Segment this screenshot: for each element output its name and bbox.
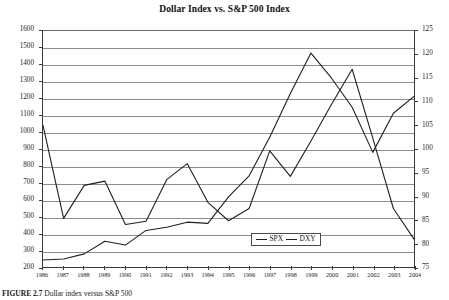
y-axis-left-tick-mark bbox=[39, 64, 43, 65]
x-axis-tick-mark bbox=[229, 266, 230, 270]
chart-legend: SPX DXY bbox=[251, 233, 321, 246]
legend-entry-spx: SPX bbox=[256, 235, 283, 243]
series-line-dxy bbox=[43, 69, 414, 239]
x-axis-tick-mark bbox=[125, 266, 126, 270]
y-axis-left-tick-label: 600 bbox=[0, 196, 34, 203]
y-axis-right-tick-label: 80 bbox=[422, 241, 449, 248]
y-axis-left-tick-mark bbox=[39, 98, 43, 99]
x-axis-tick-label: 2004 bbox=[402, 272, 428, 278]
y-axis-right-tick-label: 75 bbox=[422, 264, 449, 271]
y-axis-left-tick-mark bbox=[39, 30, 43, 31]
y-axis-left-tick-label: 1600 bbox=[0, 26, 34, 33]
series-line-spx bbox=[43, 53, 414, 260]
y-axis-right-tick-mark bbox=[414, 173, 418, 174]
y-axis-right-tick-mark bbox=[414, 101, 418, 102]
y-axis-left-tick-label: 200 bbox=[0, 264, 34, 271]
y-axis-right-tick-mark bbox=[414, 30, 418, 31]
x-axis-tick-mark bbox=[208, 266, 209, 270]
x-axis-tick-mark bbox=[415, 266, 416, 270]
y-axis-right-tick-label: 95 bbox=[422, 169, 449, 176]
chart-title: Dollar Index vs. S&P 500 Index bbox=[0, 4, 449, 14]
legend-label-spx: SPX bbox=[270, 235, 284, 243]
y-axis-right-tick-label: 110 bbox=[422, 98, 449, 105]
y-axis-right-tick-mark bbox=[414, 149, 418, 150]
y-axis-right-tick-label: 125 bbox=[422, 26, 449, 33]
x-axis-tick-mark bbox=[42, 266, 43, 270]
y-axis-left-tick-mark bbox=[39, 234, 43, 235]
y-axis-left-tick-mark bbox=[39, 149, 43, 150]
x-axis-tick-mark bbox=[270, 266, 271, 270]
figure-caption: FIGURE 2.7 Dollar index versus S&P 500 bbox=[2, 289, 449, 298]
x-axis-tick-mark bbox=[187, 266, 188, 270]
y-axis-left-tick-label: 500 bbox=[0, 213, 34, 220]
y-axis-right-tick-label: 85 bbox=[422, 217, 449, 224]
y-axis-right-tick-mark bbox=[414, 220, 418, 221]
plot-area bbox=[42, 30, 415, 268]
figure-caption-number: FIGURE 2.7 bbox=[2, 289, 42, 298]
y-axis-right-tick-label: 100 bbox=[422, 145, 449, 152]
figure-caption-text: Dollar index versus S&P 500 bbox=[42, 289, 132, 298]
x-axis-tick-mark bbox=[353, 266, 354, 270]
y-axis-left-tick-mark bbox=[39, 251, 43, 252]
y-axis-left-tick-label: 1100 bbox=[0, 111, 34, 118]
y-axis-left-tick-label: 300 bbox=[0, 247, 34, 254]
y-axis-right-tick-label: 115 bbox=[422, 74, 449, 81]
y-axis-left-tick-label: 800 bbox=[0, 162, 34, 169]
x-axis-tick-mark bbox=[291, 266, 292, 270]
y-axis-right-tick-mark bbox=[414, 197, 418, 198]
y-axis-right-tick-label: 90 bbox=[422, 193, 449, 200]
y-axis-right-tick-label: 120 bbox=[422, 50, 449, 57]
x-axis-tick-mark bbox=[166, 266, 167, 270]
x-axis-tick-mark bbox=[63, 266, 64, 270]
y-axis-left-tick-mark bbox=[39, 81, 43, 82]
y-axis-right-tick-mark bbox=[414, 54, 418, 55]
series-svg bbox=[43, 31, 414, 267]
y-axis-left-tick-label: 1500 bbox=[0, 43, 34, 50]
x-axis-tick-mark bbox=[104, 266, 105, 270]
x-axis-tick-mark bbox=[249, 266, 250, 270]
y-axis-left-tick-mark bbox=[39, 200, 43, 201]
legend-label-dxy: DXY bbox=[300, 235, 316, 243]
y-axis-left-tick-mark bbox=[39, 183, 43, 184]
chart-figure: Dollar Index vs. S&P 500 Index 200300400… bbox=[0, 0, 449, 300]
x-axis-tick-mark bbox=[146, 266, 147, 270]
y-axis-right-tick-mark bbox=[414, 78, 418, 79]
legend-line-icon-dxy bbox=[286, 239, 297, 240]
x-axis-tick-mark bbox=[374, 266, 375, 270]
y-axis-left-tick-label: 1200 bbox=[0, 94, 34, 101]
x-axis-tick-mark bbox=[332, 266, 333, 270]
y-axis-right-tick-label: 105 bbox=[422, 122, 449, 129]
y-axis-left-tick-mark bbox=[39, 166, 43, 167]
x-axis-tick-mark bbox=[83, 266, 84, 270]
x-axis-tick-mark bbox=[394, 266, 395, 270]
y-axis-left-tick-mark bbox=[39, 47, 43, 48]
series-layer bbox=[43, 31, 414, 267]
legend-entry-dxy: DXY bbox=[286, 235, 316, 243]
legend-line-icon-spx bbox=[256, 239, 267, 240]
y-axis-left-tick-label: 1300 bbox=[0, 77, 34, 84]
y-axis-left-tick-label: 400 bbox=[0, 230, 34, 237]
y-axis-right-tick-mark bbox=[414, 125, 418, 126]
y-axis-left-tick-label: 900 bbox=[0, 145, 34, 152]
y-axis-right-tick-mark bbox=[414, 244, 418, 245]
y-axis-left-tick-mark bbox=[39, 132, 43, 133]
y-axis-left-tick-mark bbox=[39, 217, 43, 218]
y-axis-left-tick-label: 700 bbox=[0, 179, 34, 186]
x-axis-tick-mark bbox=[311, 266, 312, 270]
y-axis-left-tick-mark bbox=[39, 115, 43, 116]
y-axis-left-tick-label: 1000 bbox=[0, 128, 34, 135]
y-axis-left-tick-label: 1400 bbox=[0, 60, 34, 67]
